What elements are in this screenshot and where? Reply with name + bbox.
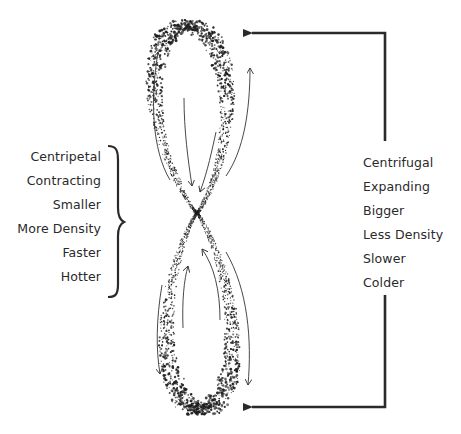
label-smaller: Smaller	[0, 193, 101, 217]
label-bigger: Bigger	[363, 199, 461, 223]
label-expanding: Expanding	[363, 175, 461, 199]
arrow-to-bottom-lobe-icon	[252, 295, 385, 407]
label-slower: Slower	[363, 247, 461, 271]
flow-arrow-icon	[154, 52, 170, 180]
curly-brace-icon	[108, 146, 124, 297]
stippled-figure-eight	[145, 19, 240, 416]
label-centripetal: Centripetal	[0, 145, 101, 169]
label-more-density: More Density	[0, 217, 101, 241]
flow-arrow-icon	[200, 132, 216, 192]
left-label-group: Centripetal Contracting Smaller More Den…	[0, 145, 101, 289]
flow-arrow-icon	[184, 98, 192, 186]
arrow-to-top-lobe-icon	[252, 33, 385, 141]
label-contracting: Contracting	[0, 169, 101, 193]
label-centrifugal: Centrifugal	[363, 151, 461, 175]
flow-arrow-icon	[226, 252, 249, 385]
flow-arrow-icon	[183, 266, 188, 328]
label-less-density: Less Density	[363, 223, 461, 247]
right-label-group: Centrifugal Expanding Bigger Less Densit…	[363, 151, 461, 295]
label-colder: Colder	[363, 271, 461, 295]
label-faster: Faster	[0, 241, 101, 265]
label-hotter: Hotter	[0, 265, 101, 289]
flow-arrow-icon	[202, 249, 220, 320]
flow-arrows-top-lobe	[154, 52, 250, 192]
